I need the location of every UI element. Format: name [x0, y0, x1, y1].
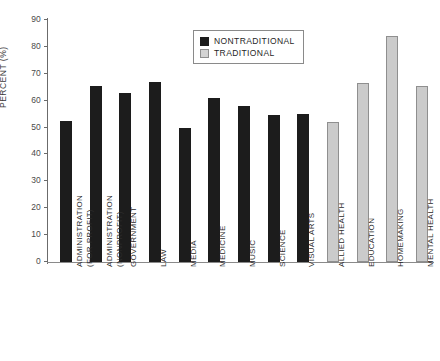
x-axis-label-line: ADMINISTRATION [105, 175, 115, 267]
bar [60, 121, 72, 262]
x-axis-label-line: ADMINISTRATION [75, 175, 85, 267]
x-axis-label-line: (NONPROFIT) [114, 175, 124, 267]
legend-swatch-traditional-icon [200, 49, 209, 58]
x-axis-label-line: EDUCATION [367, 175, 377, 267]
y-tick-label: 80 [31, 41, 41, 52]
y-tick-label: 0 [36, 256, 41, 267]
legend-label-traditional: TRADITIONAL [214, 48, 275, 58]
x-axis-label-line: GOVERNMENT [129, 175, 139, 267]
x-axis-label: LAW [159, 175, 169, 267]
x-axis-label-line: MEDIA [189, 175, 199, 267]
legend-item-nontraditional: NONTRADITIONAL [200, 35, 295, 47]
x-axis-label: MENTAL HEALTH [426, 175, 436, 267]
x-axis-label: HOMEMAKING [396, 175, 406, 267]
x-axis-label: SCIENCE [278, 175, 288, 267]
x-axis-label-line: MUSIC [248, 175, 258, 267]
x-axis-label: ALLIED HEALTH [337, 175, 347, 267]
x-axis-label: MUSIC [248, 175, 258, 267]
x-axis-label: ADMINISTRATION(NONPROFIT) [105, 175, 124, 267]
x-axis-label-line: MENTAL HEALTH [426, 175, 436, 267]
x-axis-label: VISUAL ARTS [307, 175, 317, 267]
legend-label-nontraditional: NONTRADITIONAL [214, 36, 295, 46]
x-axis-label-line: ALLIED HEALTH [337, 175, 347, 267]
x-axis-label-line: MEDICINE [218, 175, 228, 267]
x-axis-label: MEDIA [189, 175, 199, 267]
x-axis-label-line: VISUAL ARTS [307, 175, 317, 267]
x-axis-label-line: SCIENCE [278, 175, 288, 267]
chart-legend: NONTRADITIONAL TRADITIONAL [193, 30, 304, 64]
bar-chart: PERCENT (%) 0102030405060708090 ADMINIST… [0, 0, 440, 361]
y-axis-title: PERCENT (%) [0, 46, 8, 108]
y-tick-label: 40 [31, 148, 41, 159]
y-tick-label: 30 [31, 175, 41, 186]
y-tick-label: 90 [31, 14, 41, 25]
x-axis-label-line: LAW [159, 175, 169, 267]
legend-swatch-nontraditional-icon [200, 37, 209, 46]
x-axis-label: EDUCATION [367, 175, 377, 267]
y-tick-label: 10 [31, 229, 41, 240]
y-tick-label: 20 [31, 202, 41, 213]
x-axis-label: MEDICINE [218, 175, 228, 267]
y-tick-label: 50 [31, 122, 41, 133]
x-axis-label: ADMINISTRATION(FOR-PROFIT) [75, 175, 94, 267]
legend-item-traditional: TRADITIONAL [200, 47, 295, 59]
x-axis-label-line: (FOR-PROFIT) [84, 175, 94, 267]
y-tick-label: 60 [31, 95, 41, 106]
y-tick-label: 70 [31, 68, 41, 79]
x-axis-label-line: HOMEMAKING [396, 175, 406, 267]
x-axis-label: GOVERNMENT [129, 175, 139, 267]
